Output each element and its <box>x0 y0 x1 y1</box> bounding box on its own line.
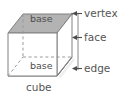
callout-label-vertex: vertex <box>84 8 118 19</box>
callout-label-face: face <box>84 32 106 43</box>
bottom-face-label: base <box>30 61 53 71</box>
figure-caption: cube <box>26 82 52 93</box>
callout-label-edge: edge <box>84 63 110 74</box>
cube-diagram: base base vertex face edge cube <box>0 0 131 97</box>
edge-arrow-icon <box>72 66 82 71</box>
top-face-label: base <box>30 14 53 24</box>
face-arrow-icon <box>72 35 82 40</box>
vertex-arrow-icon <box>72 11 82 16</box>
